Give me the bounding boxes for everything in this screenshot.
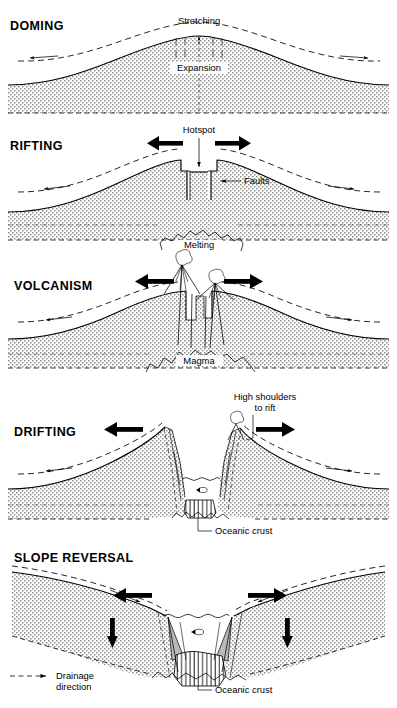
rifting-stages-figure: DOMING Stretching Expansion <box>0 0 397 708</box>
drifting-water-body <box>184 479 218 502</box>
high-shoulders-label-line2: to rift <box>255 402 276 413</box>
faults-label: Faults <box>244 175 270 186</box>
drifting-oceanic-crust <box>184 500 216 518</box>
panel-title-volcanism: VOLCANISM <box>14 279 93 293</box>
reversal-oceanic-crust <box>174 651 226 686</box>
panel-title-slope-reversal: SLOPE REVERSAL <box>14 551 134 565</box>
drifting-oceanic-crust-label: Oceanic crust <box>215 525 273 536</box>
melting-label: Melting <box>184 239 214 250</box>
high-shoulders-label-line1: High shoulders <box>234 391 297 402</box>
panel-title-rifting: RIFTING <box>10 139 63 153</box>
magma-label: Magma <box>183 355 215 366</box>
panel-title-drifting: DRIFTING <box>14 425 76 439</box>
legend-label-line1: Drainage <box>56 670 94 681</box>
legend-label-line2: direction <box>56 681 91 692</box>
hotspot-label: Hotspot <box>183 124 216 135</box>
figure-canvas: DOMING Stretching Expansion <box>0 0 397 708</box>
stretching-label: Stretching <box>178 15 220 26</box>
panel-title-doming: DOMING <box>10 19 64 33</box>
reversal-oceanic-crust-label: Oceanic crust <box>215 684 273 695</box>
expansion-label: Expansion <box>177 62 221 73</box>
